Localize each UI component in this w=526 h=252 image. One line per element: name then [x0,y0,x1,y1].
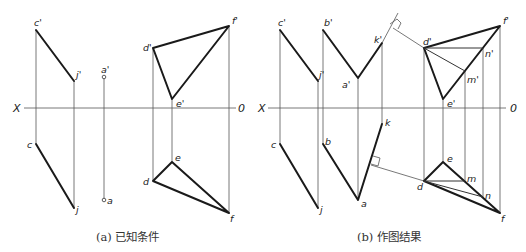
triangle-d-e-f-b [424,162,500,213]
label-a-prime: a' [101,64,109,75]
label-d-prime-b: d' [423,36,432,47]
label-e-prime-b: e' [447,98,455,109]
label-f-prime-b: f' [503,15,509,26]
point-a-prime [102,75,106,79]
label-b: b [325,136,331,147]
label-j: j [74,204,79,215]
line-c-prime-j-prime [36,30,74,81]
axis-o-label-b: 0 [510,102,517,115]
caption-a: (a) 已知条件 [96,228,160,244]
label-e-b: e [447,153,453,164]
right-angle-mark-top [390,19,401,29]
label-c-prime-b: c' [278,17,286,28]
perpendicular-d [371,165,424,181]
label-k: k [385,117,391,128]
label-k-prime: k' [374,34,382,45]
label-b-prime: b' [324,17,333,28]
label-m-prime: m' [467,74,479,85]
line-c-j-b [280,144,318,208]
label-m: m [467,173,476,184]
figure-a: X 0 c' j' a' d' e' f' c j a d e f [12,15,245,224]
line-c-prime-j-prime-b [280,30,318,81]
triangle-d-prime-e-prime-f-prime-b [424,26,500,99]
label-c: c [27,139,33,150]
label-a-prime-b: a' [342,79,350,90]
point-a [102,198,106,202]
extension-a-prime-k-prime [382,13,398,43]
label-a: a [107,195,113,206]
label-c-b: c [271,139,277,150]
axis-x-label-b: X [257,102,266,115]
perpendicular-d-prime [393,28,424,48]
label-j-b: j [318,204,323,215]
axis-x-label-a: X [12,102,21,115]
figure-b: X 0 c' j' [257,13,517,224]
label-e: e [175,152,181,163]
label-j-prime: j' [74,69,81,80]
label-f-prime: f' [232,15,238,26]
label-a-b: a [361,198,367,209]
label-c-prime: c' [34,17,42,28]
axis-o-label-a: 0 [238,102,245,115]
projection-diagrams: X 0 c' j' a' d' e' f' c j a d e f [0,0,526,252]
label-n: n [485,190,491,201]
label-d-b: d [417,181,424,192]
line-d-prime-m-prime [424,48,465,71]
line-c-j [36,144,74,208]
label-d: d [143,176,150,187]
lines-b-a-k [323,124,382,200]
label-n-prime: n' [485,48,494,59]
triangle-d-e-f [153,162,229,213]
label-d-prime: d' [143,42,152,53]
label-f-b: f [501,213,506,224]
label-f: f [230,213,235,224]
caption-b: (b) 作图结果 [357,228,421,244]
triangle-d-prime-e-prime-f-prime [153,26,229,99]
label-e-prime: e' [176,98,184,109]
label-j-prime-b: j' [317,69,324,80]
